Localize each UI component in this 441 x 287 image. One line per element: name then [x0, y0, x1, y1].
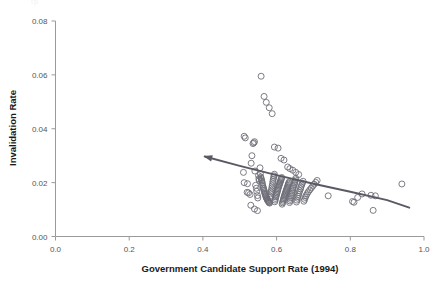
- y-tick-label: 0.00: [32, 233, 48, 242]
- x-axis: 0.00.20.40.60.81.0: [50, 237, 430, 254]
- plot-canvas: 0.000.020.040.060.08 0.00.20.40.60.81.0 …: [0, 0, 441, 287]
- scatter-point: [370, 207, 376, 213]
- scatter-point: [399, 181, 405, 187]
- y-tick-label: 0.08: [32, 17, 48, 26]
- scatter-point: [248, 160, 254, 166]
- scatter-point: [275, 145, 281, 151]
- y-tick-label: 0.06: [32, 71, 48, 80]
- y-tick-label: 0.04: [32, 125, 48, 134]
- scatter-point: [271, 144, 277, 150]
- scatter-point: [249, 153, 255, 159]
- scatter-plot-figure: tp 0.000.020.040.060.08 0.00.20.40.60.81…: [0, 0, 441, 287]
- x-tick-label: 0.6: [271, 245, 283, 254]
- y-axis-title: Invalidation Rate: [7, 90, 18, 166]
- scatter-points: [240, 73, 404, 213]
- scatter-point: [258, 73, 264, 79]
- x-tick-label: 1.0: [418, 245, 430, 254]
- x-tick-label: 0.0: [50, 245, 62, 254]
- x-tick-marks: [56, 237, 425, 241]
- y-axis: 0.000.020.040.060.08: [32, 17, 56, 242]
- scatter-point: [248, 202, 254, 208]
- x-tick-label: 0.2: [124, 245, 136, 254]
- trend-line-arrowhead: [203, 155, 213, 161]
- scatter-point: [241, 180, 247, 186]
- scatter-point: [242, 135, 248, 141]
- y-tick-marks: [52, 21, 56, 237]
- x-tick-label: 0.4: [197, 245, 209, 254]
- x-tick-label: 0.8: [345, 245, 357, 254]
- scatter-point: [266, 105, 272, 111]
- x-axis-title: Government Candidate Support Rate (1994): [142, 263, 339, 274]
- x-tick-labels: 0.00.20.40.60.81.0: [50, 245, 430, 254]
- scatter-point: [269, 111, 275, 117]
- scatter-point: [325, 193, 331, 199]
- y-tick-label: 0.02: [32, 179, 48, 188]
- scatter-point: [261, 93, 267, 99]
- scatter-point: [240, 169, 246, 175]
- y-tick-labels: 0.000.020.040.060.08: [32, 17, 48, 242]
